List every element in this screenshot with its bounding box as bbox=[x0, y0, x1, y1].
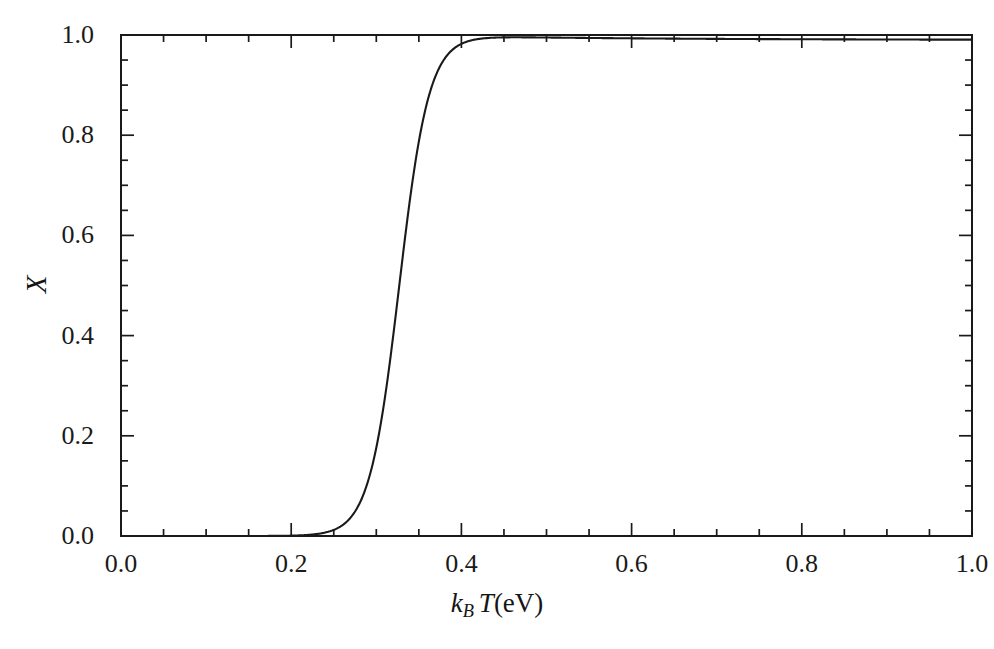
x-axis-title-t: T bbox=[479, 588, 494, 618]
axes-border bbox=[121, 35, 972, 536]
caption-fragment bbox=[6, 634, 426, 648]
x-tick-label-4: 0.6 bbox=[615, 551, 648, 577]
x-axis-title-subscript: B bbox=[463, 601, 474, 621]
plot-canvas bbox=[0, 0, 994, 649]
figure-page: 1.0 0.8 0.6 0.4 0.2 0.0 0.0 0.2 0.4 0.6 … bbox=[0, 0, 994, 649]
x-tick-label-1: 0.0 bbox=[105, 551, 138, 577]
axis-ticks-group bbox=[121, 35, 972, 536]
x-tick-label-2: 0.2 bbox=[275, 551, 308, 577]
y-tick-label-4: 0.4 bbox=[30, 323, 94, 349]
y-tick-label-3: 0.6 bbox=[30, 222, 94, 248]
y-tick-label-2: 0.8 bbox=[30, 122, 94, 148]
y-tick-label-1: 1.0 bbox=[30, 22, 94, 48]
x-axis-title-units: (eV) bbox=[494, 588, 543, 618]
x-axis-title: kBT(eV) bbox=[0, 588, 994, 622]
x-axis-title-k: k bbox=[451, 588, 463, 618]
x-tick-label-3: 0.4 bbox=[445, 551, 478, 577]
axes-frame bbox=[121, 35, 972, 536]
y-tick-label-5: 0.2 bbox=[30, 423, 94, 449]
y-axis-title: X bbox=[20, 263, 53, 307]
y-tick-label-6: 0.0 bbox=[30, 523, 94, 549]
data-curve-line bbox=[121, 37, 972, 536]
x-tick-label-5: 0.8 bbox=[786, 551, 819, 577]
x-tick-label-6: 1.0 bbox=[956, 551, 989, 577]
plot-figure: 1.0 0.8 0.6 0.4 0.2 0.0 0.0 0.2 0.4 0.6 … bbox=[0, 0, 994, 649]
